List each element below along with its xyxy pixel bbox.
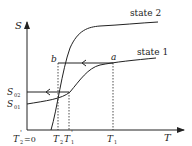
x-axis-label: T [164, 132, 172, 143]
y-tick-s01: S 01 [7, 99, 20, 110]
svg-text:02: 02 [14, 92, 20, 98]
state-1-label: state 1 [137, 47, 168, 57]
state-2-curve [51, 22, 158, 130]
y-tick-s02: S 02 [7, 87, 20, 98]
svg-text:2: 2 [20, 139, 23, 145]
s-t-diagram: S T state 2 state 1 a b S 02 S 01 T 2 ' … [0, 0, 192, 146]
svg-text:T: T [64, 134, 71, 144]
svg-text:T: T [53, 134, 60, 144]
svg-text:2: 2 [60, 139, 63, 145]
svg-text:': ' [71, 129, 73, 137]
state-1-curve [27, 58, 156, 104]
y-axis-label: S [15, 20, 22, 31]
point-b-label: b [51, 54, 57, 64]
svg-text:1: 1 [114, 139, 117, 145]
state-2-label: state 2 [130, 8, 161, 18]
svg-text:1: 1 [71, 139, 74, 145]
svg-text:S: S [7, 87, 13, 97]
svg-text:S: S [7, 99, 13, 109]
svg-text:01: 01 [14, 104, 20, 110]
svg-text:=0: =0 [24, 135, 36, 144]
svg-text:T: T [13, 134, 20, 144]
x-tick-t1prime: T 1 ' [64, 129, 74, 145]
point-a-label: a [111, 52, 116, 62]
x-tick-t1: T 1 [107, 134, 117, 145]
x-tick-t2prime: T 2 ' =0 [13, 129, 36, 145]
x-tick-t2: T 2 [53, 134, 63, 145]
svg-text:T: T [107, 134, 114, 144]
svg-text:': ' [20, 129, 22, 137]
